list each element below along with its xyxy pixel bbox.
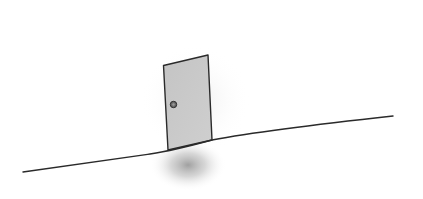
- illustration-canvas: [0, 0, 423, 199]
- doorknob-highlight: [172, 103, 174, 105]
- door-sketch-illustration: [0, 0, 423, 199]
